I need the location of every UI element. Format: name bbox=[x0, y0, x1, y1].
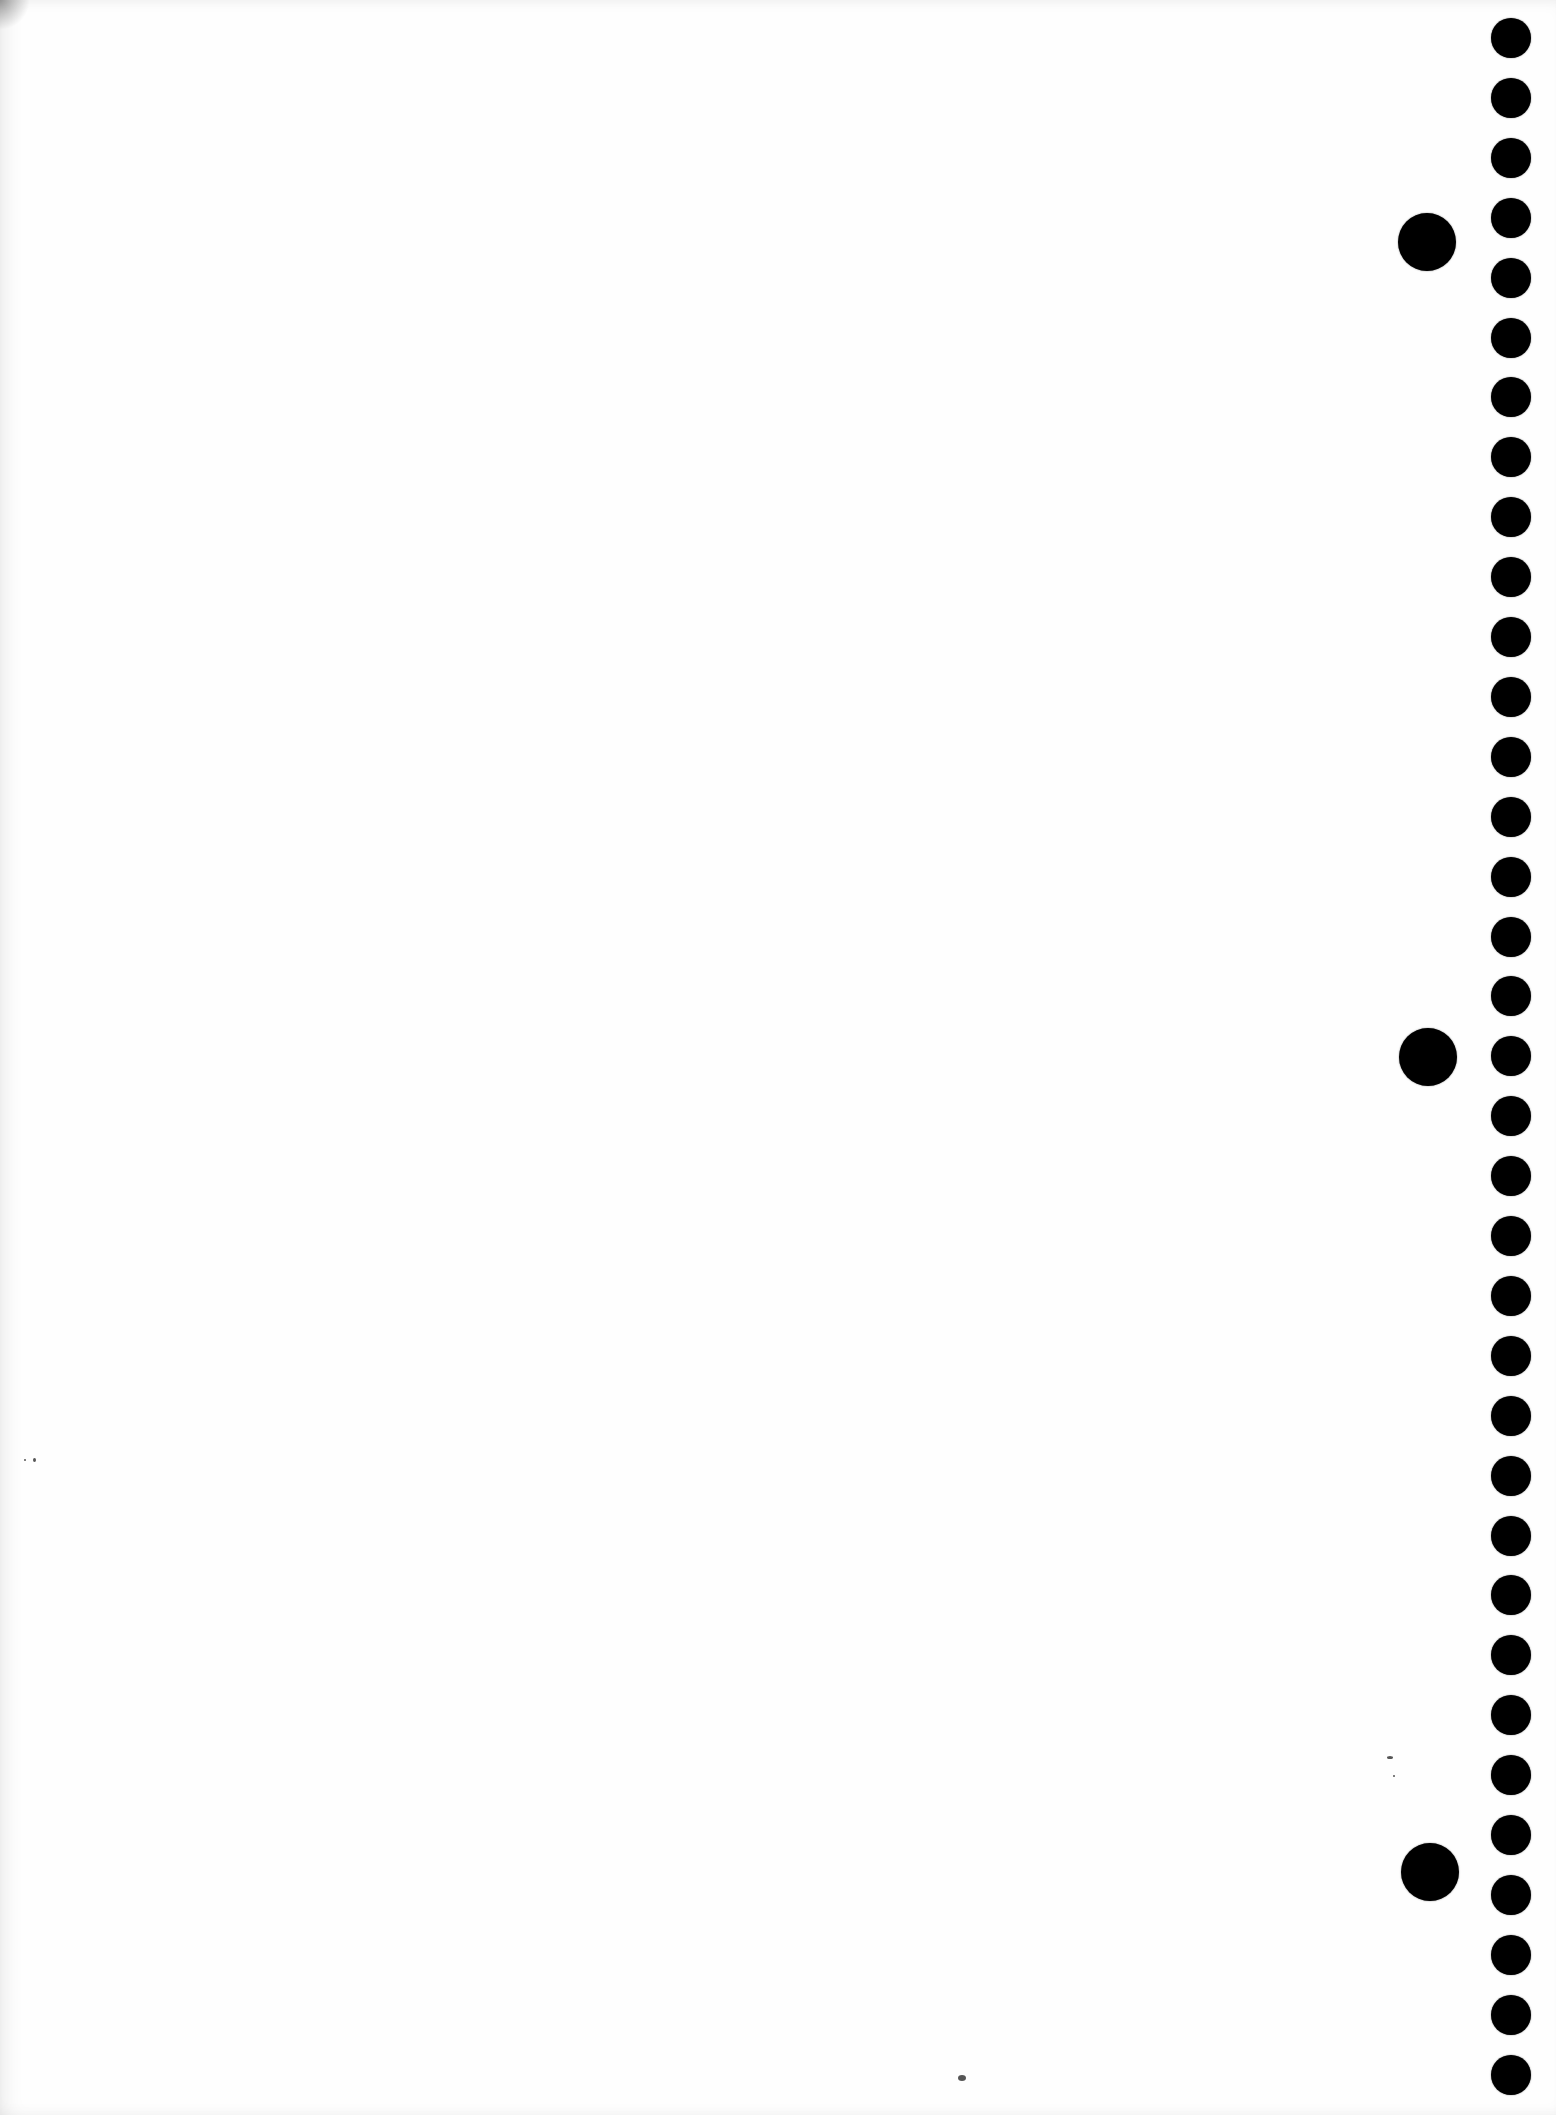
perforation-hole bbox=[1491, 2055, 1531, 2095]
perforation-hole bbox=[1491, 1875, 1531, 1915]
perforation-hole bbox=[1491, 1036, 1531, 1076]
corner-shadow bbox=[0, 0, 30, 30]
perforation-hole bbox=[1491, 138, 1531, 178]
perforation-hole bbox=[1491, 1995, 1531, 2035]
perforation-hole bbox=[1491, 1456, 1531, 1496]
binder-hole bbox=[1398, 213, 1456, 271]
perforation-hole bbox=[1491, 1216, 1531, 1256]
perforation-hole bbox=[1491, 497, 1531, 537]
binder-hole bbox=[1399, 1028, 1457, 1086]
perforation-hole bbox=[1491, 677, 1531, 717]
paper-speck bbox=[958, 2075, 966, 2081]
perforation-hole bbox=[1491, 1336, 1531, 1376]
paper-speck bbox=[1387, 1756, 1393, 1759]
perforation-hole bbox=[1491, 1815, 1531, 1855]
binder-hole bbox=[1401, 1843, 1459, 1901]
perforation-hole bbox=[1491, 557, 1531, 597]
paper-speck bbox=[33, 1458, 36, 1462]
perforation-hole bbox=[1491, 258, 1531, 298]
perforation-hole bbox=[1491, 1575, 1531, 1615]
perforation-hole bbox=[1491, 857, 1531, 897]
perforation-hole bbox=[1491, 1096, 1531, 1136]
perforation-hole bbox=[1491, 1755, 1531, 1795]
paper-speck bbox=[24, 1459, 26, 1461]
perforation-hole bbox=[1491, 617, 1531, 657]
perforation-hole bbox=[1491, 1935, 1531, 1975]
paper-sheet: Blank sheet of perforated paper bbox=[0, 0, 1556, 2115]
perforation-hole bbox=[1491, 1156, 1531, 1196]
perforation-hole bbox=[1491, 1635, 1531, 1675]
perforation-hole bbox=[1491, 18, 1531, 58]
perforation-hole bbox=[1491, 1276, 1531, 1316]
perforation-hole bbox=[1491, 1516, 1531, 1556]
paper-speck bbox=[1393, 1775, 1395, 1777]
perforation-hole bbox=[1491, 377, 1531, 417]
perforation-hole bbox=[1491, 1396, 1531, 1436]
perforation-hole bbox=[1491, 917, 1531, 957]
perforation-hole bbox=[1491, 437, 1531, 477]
perforation-hole bbox=[1491, 198, 1531, 238]
perforation-hole bbox=[1491, 78, 1531, 118]
perforation-hole bbox=[1491, 318, 1531, 358]
perforation-hole bbox=[1491, 1695, 1531, 1735]
perforation-hole bbox=[1491, 976, 1531, 1016]
perforation-hole bbox=[1491, 737, 1531, 777]
perforation-hole bbox=[1491, 797, 1531, 837]
